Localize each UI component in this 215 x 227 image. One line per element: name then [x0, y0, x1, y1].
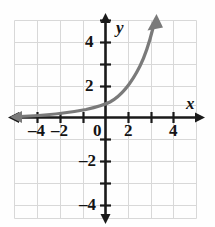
exponential-curve: [10, 14, 163, 123]
x-tick-label-2: 2: [124, 122, 133, 139]
curve-arrowhead: [148, 14, 164, 31]
x-axis-right-arrow: [195, 113, 205, 123]
x-axis-label: x: [186, 95, 195, 112]
y-tick-label-neg2: –2: [79, 152, 96, 169]
y-tick-label-neg4: –4: [79, 196, 96, 213]
axes: [18, 21, 198, 216]
coordinate-plane-svg: [0, 0, 215, 227]
y-tick-label-2: 2: [85, 77, 94, 94]
x-tick-label-0: 0: [93, 122, 102, 139]
graph-figure: 4 2 –2 –4 –4 –2 0 2 4 y x: [0, 0, 215, 227]
x-tick-label-neg2: –2: [51, 122, 68, 139]
x-tick-label-neg4: –4: [28, 122, 45, 139]
y-axis-label: y: [116, 19, 124, 36]
x-tick-label-4: 4: [169, 122, 178, 139]
y-tick-label-4: 4: [85, 33, 94, 50]
